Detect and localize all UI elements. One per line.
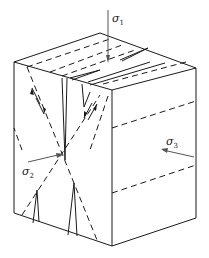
right-face-fracture-planes (112, 101, 196, 193)
stress-cube-figure: σ1 σ2 σ3 (0, 0, 209, 258)
sigma3-arrow: σ3 (161, 135, 194, 157)
sigma1-label: σ1 (112, 12, 124, 27)
left-face-shear-planes (14, 67, 108, 240)
left-face-vertical-cracks (33, 78, 90, 236)
cube-diagram: σ1 σ2 σ3 (0, 0, 209, 258)
sigma2-arrow: σ2 (22, 153, 64, 180)
sigma2-label: σ2 (22, 165, 34, 180)
sigma3-label: σ3 (166, 135, 178, 150)
